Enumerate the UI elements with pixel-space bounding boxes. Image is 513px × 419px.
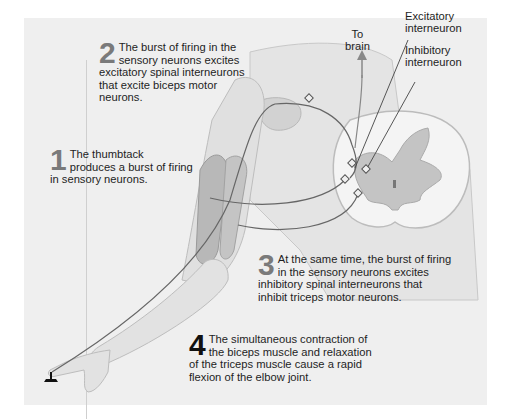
step-number: 4 <box>189 334 206 356</box>
excitatory-interneuron-label: Excitatory interneuron <box>405 10 462 35</box>
step-1: 1 The thumbtack produces a burst of firi… <box>50 148 220 186</box>
step-number: 1 <box>50 149 67 171</box>
step-number: 3 <box>258 254 275 276</box>
spinal-cord-section <box>333 111 469 228</box>
inhibitory-interneuron-label: Inhibitory interneuron <box>405 44 462 69</box>
step-number: 2 <box>99 42 116 64</box>
to-brain-label: To brain <box>345 28 370 53</box>
step-2: 2 The burst of firing in the sensory neu… <box>99 41 299 104</box>
step-4: 4 The simultaneous contraction of the bi… <box>189 333 409 383</box>
hand <box>48 350 110 392</box>
step-3: 3 At the same time, the burst of firing … <box>258 253 488 303</box>
